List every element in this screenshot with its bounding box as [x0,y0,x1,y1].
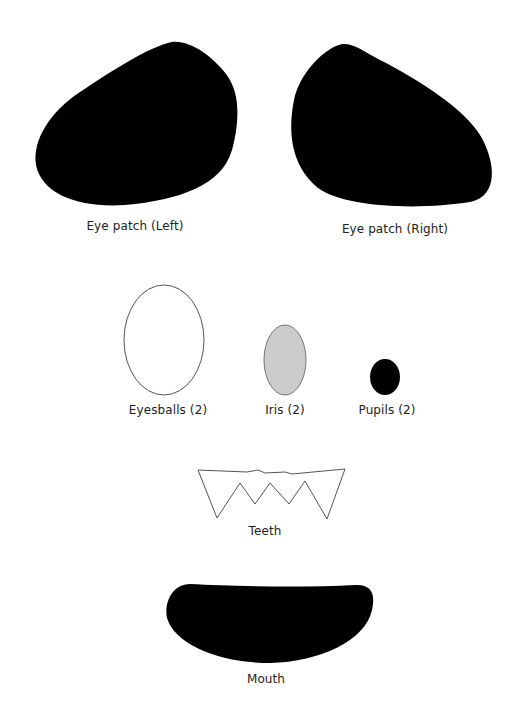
pupil-shape [370,359,400,395]
eye-patch-right-label: Eye patch (Right) [342,222,448,236]
eye-patch-left-label: Eye patch (Left) [86,219,183,233]
eye-patch-right-shape [291,44,492,206]
mouth-shape [166,584,373,663]
teeth-label: Teeth [249,524,282,538]
iris-shape [264,325,306,395]
teeth-shape [198,469,345,519]
template-canvas [0,0,524,708]
eye-patch-left-shape [35,42,237,206]
eyeballs-label: Eyesballs (2) [129,403,207,417]
eyeball-shape [124,285,204,395]
pupils-label: Pupils (2) [359,403,416,417]
mouth-label: Mouth [247,672,285,686]
iris-label: Iris (2) [265,403,305,417]
